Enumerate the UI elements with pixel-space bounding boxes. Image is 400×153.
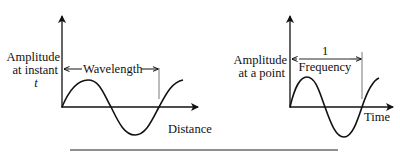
fraction-numerator: 1 <box>315 45 335 58</box>
fraction-denominator: Frequency <box>298 61 352 74</box>
y-axis-label-line2: at a point <box>220 67 285 80</box>
y-axis-label-line3: t <box>26 77 46 90</box>
wavelength-label: Wavelength <box>83 63 142 76</box>
x-axis-label: Time <box>364 111 390 124</box>
y-axis-label-line2: at instant <box>0 64 58 77</box>
wave-diagrams: Amplitude at instant t Wavelength Distan… <box>0 0 400 153</box>
x-axis-label: Distance <box>168 123 212 136</box>
